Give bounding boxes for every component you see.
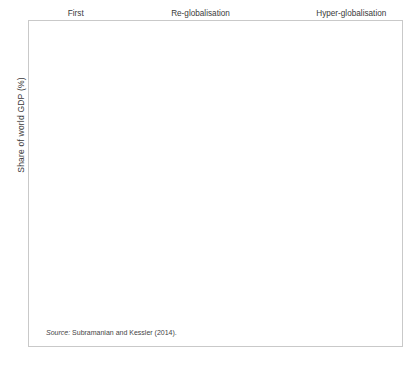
y-axis-label: Share of world GDP (%) bbox=[16, 60, 26, 190]
source-text: Subramanian and Kessler (2014). bbox=[70, 329, 177, 336]
source-note: Source: Subramanian and Kessler (2014). bbox=[46, 329, 177, 336]
era-hyper-globalisation-label: Hyper-globalisation bbox=[316, 9, 387, 18]
era-re-globalisation-label: Re-globalisation bbox=[171, 9, 230, 18]
era-first-globalisation-label: First bbox=[68, 9, 85, 18]
figure-root: Share of world GDP (%) Source: Subramani… bbox=[0, 0, 415, 368]
figure-frame bbox=[28, 20, 403, 347]
source-prefix: Source: bbox=[46, 329, 70, 336]
